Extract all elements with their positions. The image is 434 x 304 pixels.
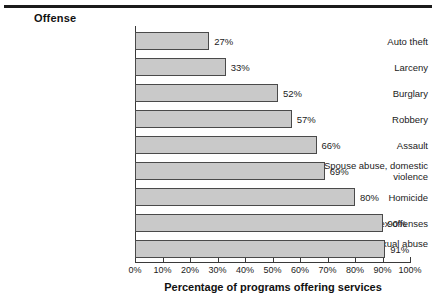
- x-tick-label: 60%: [291, 265, 309, 275]
- bar: [135, 110, 292, 128]
- x-axis-line: [135, 262, 411, 263]
- category-label: Burglary: [306, 88, 434, 99]
- bar: [135, 58, 226, 76]
- x-tick-label: 30%: [208, 265, 226, 275]
- chart-figure: Offense 0%10%20%30%40%50%60%70%80%90%100…: [0, 0, 434, 304]
- category-label: Robbery: [306, 114, 434, 125]
- bar-row: Larceny33%: [0, 58, 434, 76]
- bar-row: Burglary52%: [0, 84, 434, 102]
- bar-value-label: 90%: [388, 218, 407, 229]
- bar: [135, 162, 325, 180]
- x-tick-label: 0%: [128, 265, 141, 275]
- bar-value-label: 57%: [297, 114, 316, 125]
- bar-row: Child abuse, sexual abuse91%: [0, 240, 434, 258]
- bar-value-label: 66%: [322, 140, 341, 151]
- bar-value-label: 52%: [283, 88, 302, 99]
- x-tick-label: 10%: [153, 265, 171, 275]
- x-tick-label: 80%: [346, 265, 364, 275]
- bar-row: Spouse abuse, domestic violence69%: [0, 162, 434, 180]
- x-tick-label: 40%: [236, 265, 254, 275]
- bar-row: Rape, other sex offenses90%: [0, 214, 434, 232]
- plot-area: 0%10%20%30%40%50%60%70%80%90%100% Auto t…: [0, 0, 434, 304]
- bar-value-label: 80%: [360, 192, 379, 203]
- bar-value-label: 91%: [390, 244, 409, 255]
- x-tick-label: 100%: [398, 265, 421, 275]
- bar: [135, 84, 278, 102]
- category-label: Larceny: [306, 62, 434, 73]
- bar: [135, 32, 209, 50]
- category-label: Auto theft: [306, 36, 434, 47]
- bar-value-label: 69%: [330, 166, 349, 177]
- bar: [135, 136, 317, 154]
- bar-value-label: 33%: [231, 62, 250, 73]
- x-axis-title: Percentage of programs offering services: [135, 281, 411, 293]
- bar-value-label: 27%: [214, 36, 233, 47]
- bar: [135, 188, 355, 206]
- bar-row: Assault66%: [0, 136, 434, 154]
- bar: [135, 214, 383, 232]
- x-tick-label: 20%: [181, 265, 199, 275]
- bar-row: Homicide80%: [0, 188, 434, 206]
- x-tick-label: 90%: [373, 265, 391, 275]
- x-tick-label: 50%: [263, 265, 281, 275]
- category-label: Spouse abuse, domestic violence: [306, 160, 434, 182]
- bar: [135, 240, 385, 258]
- bar-row: Robbery57%: [0, 110, 434, 128]
- x-tick-label: 70%: [318, 265, 336, 275]
- bar-row: Auto theft27%: [0, 32, 434, 50]
